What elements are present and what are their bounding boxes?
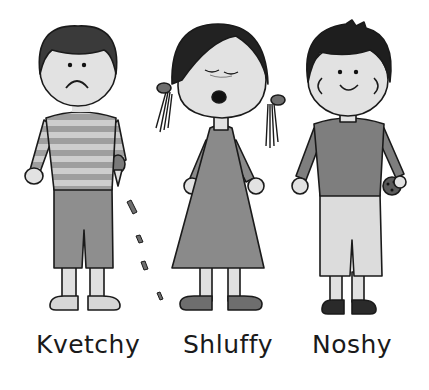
cookie-crumbs <box>127 200 163 300</box>
shluffy-figure <box>156 24 285 310</box>
kvetchy-figure <box>25 26 126 310</box>
illustration: Kvetchy Shluffy Noshy <box>0 0 429 390</box>
noshy-figure <box>292 20 406 314</box>
label-noshy: Noshy <box>312 330 392 359</box>
label-shluffy: Shluffy <box>183 330 273 359</box>
label-kvetchy: Kvetchy <box>36 330 140 359</box>
